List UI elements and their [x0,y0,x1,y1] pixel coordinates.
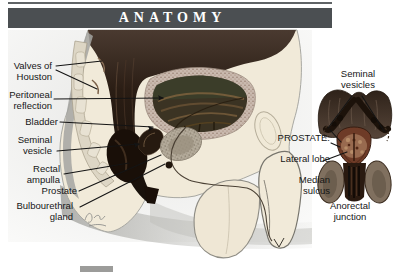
label-rectal-ampulla: Rectal ampulla [16,164,60,185]
label-prostate: Prostate [34,186,77,197]
label-bulbourethral-gland: Bulbourethral gland [4,201,73,222]
label-median-sulcus: Median sulcus [268,175,330,196]
label-prostate-heading: PROSTATE: [268,133,330,144]
inset-prostate [337,127,371,166]
sagittal-illustration [8,30,312,258]
label-seminal-vesicle: Seminal vesicle [10,135,52,156]
label-bladder: Bladder [14,117,58,128]
cropped-element-bottom [80,266,113,272]
inset-anal-canal [343,163,366,202]
medical-illustration [0,0,395,272]
label-peritoneal-reflection: Peritoneal reflection [3,90,52,111]
label-lateral-lobe: Lateral lobe [268,154,330,165]
label-seminal-vesicles: Seminal vesicles [331,69,385,90]
anatomy-figure-page: ANATOMY [0,0,395,272]
label-anorectal-junction: Anorectal junction [322,201,378,222]
bulbourethral-gland-shape [166,162,173,169]
bladder [145,67,256,139]
label-valves-of-houston: Valves of Houston [6,61,52,82]
label-prostate-group: PROSTATE: Lateral lobe Median sulcus [268,122,330,207]
